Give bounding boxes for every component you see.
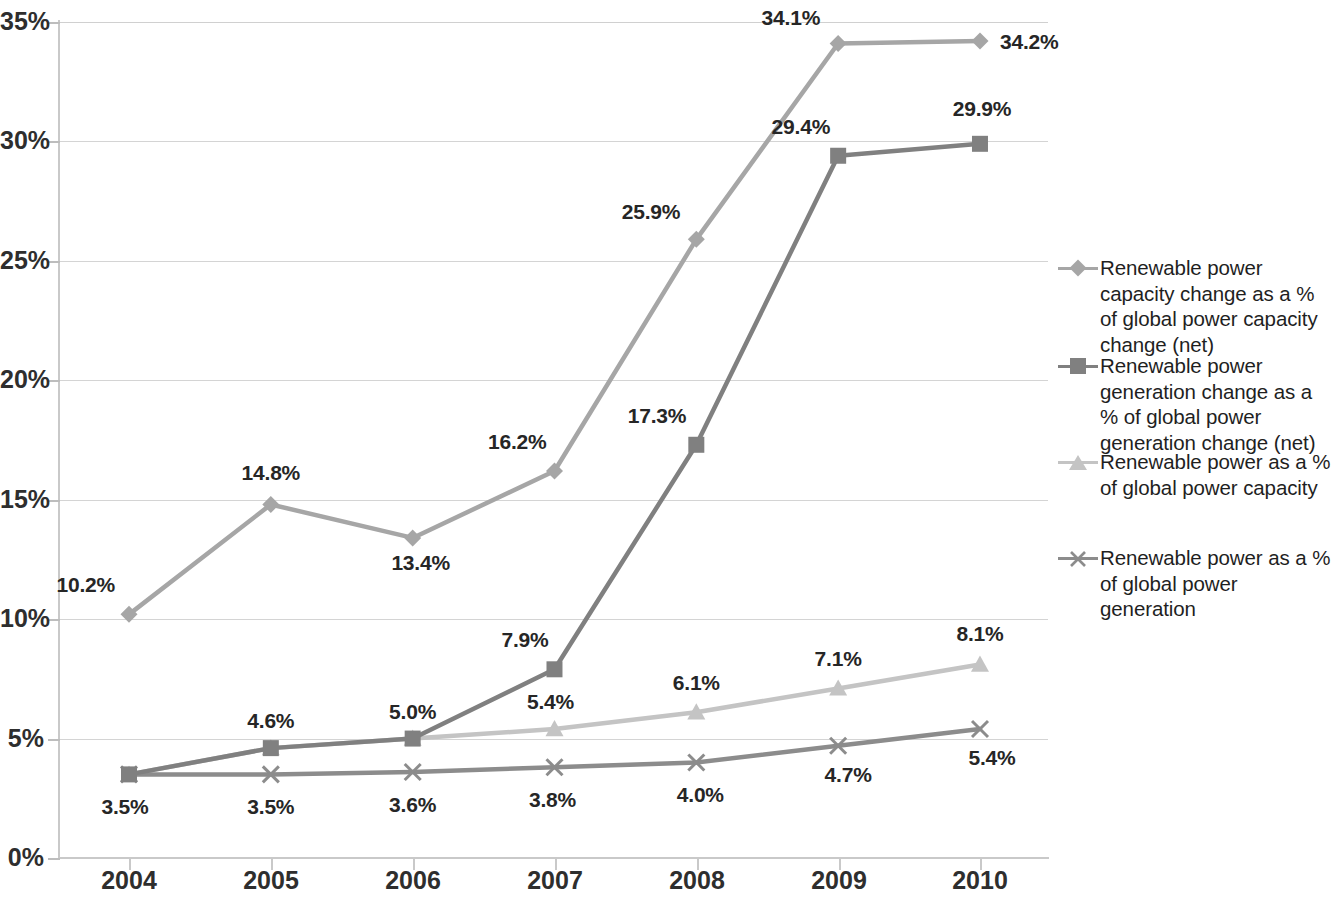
data-point-label: 7.1% <box>778 647 898 671</box>
data-point-label: 17.3% <box>0 404 686 428</box>
data-point-label: 13.4% <box>361 551 481 575</box>
x-axis-label-2005: 2005 <box>211 866 331 895</box>
y-axis-label-15: 15% <box>0 485 44 514</box>
gridline-5 <box>59 739 1048 740</box>
data-point-label: 34.1% <box>0 6 820 30</box>
data-point-label: 3.6% <box>353 793 473 817</box>
data-point-label: 29.4% <box>0 115 830 139</box>
legend-label: Renewable power generation change as a %… <box>1100 353 1333 455</box>
x-axis-label-2007: 2007 <box>495 866 615 895</box>
data-point-label: 5.4% <box>932 746 1052 770</box>
data-point-label: 7.9% <box>0 628 548 652</box>
y-tick-mark <box>48 858 60 860</box>
x-axis-line <box>58 857 1049 859</box>
data-point-label: 3.8% <box>492 788 612 812</box>
legend-item-share-capacity[interactable]: Renewable power as a % of global power c… <box>1058 449 1333 500</box>
data-point-label: 5.0% <box>353 700 473 724</box>
legend-marker <box>1070 260 1087 277</box>
y-axis-label-25: 25% <box>0 246 44 275</box>
x-axis-label-2010: 2010 <box>920 866 1040 895</box>
data-point-label: 8.1% <box>920 622 1040 646</box>
data-point-label: 3.5% <box>211 795 331 819</box>
gridline-20 <box>59 380 1048 381</box>
y-axis-label-20: 20% <box>0 365 44 394</box>
diamond-marker-icon <box>1058 255 1098 281</box>
data-point-label: 5.4% <box>490 690 610 714</box>
square-marker-icon <box>1058 353 1098 379</box>
x-axis-label-2004: 2004 <box>69 866 189 895</box>
chart-container: 35% 30% 25% 20% 15% 10% 5% 0% 2004 2005 … <box>0 0 1333 897</box>
legend-label: Renewable power capacity change as a % o… <box>1100 255 1333 357</box>
legend-item-share-generation[interactable]: Renewable power as a % of global power g… <box>1058 545 1333 622</box>
gridline-10 <box>59 619 1048 620</box>
data-point-label: 10.2% <box>0 573 115 597</box>
data-point-label: 29.9% <box>922 97 1042 121</box>
data-point-label: 4.7% <box>788 763 908 787</box>
cross-marker-icon <box>1058 545 1098 571</box>
legend-marker <box>1069 455 1087 470</box>
y-axis-label-0: 0% <box>0 843 44 872</box>
gridline-25 <box>59 261 1048 262</box>
data-point-label: 34.2% <box>1000 30 1059 54</box>
y-axis-label-5: 5% <box>0 724 44 753</box>
x-axis-label-2006: 2006 <box>353 866 473 895</box>
data-point-label: 14.8% <box>211 461 331 485</box>
data-point-label: 4.0% <box>640 783 760 807</box>
data-point-label: 4.6% <box>211 709 331 733</box>
gridline-30 <box>59 141 1048 142</box>
legend-marker <box>1069 550 1084 565</box>
data-point-label: 25.9% <box>0 200 680 224</box>
x-axis-label-2009: 2009 <box>779 866 899 895</box>
gridline-15 <box>59 500 1048 501</box>
data-point-label: 6.1% <box>636 671 756 695</box>
legend-label: Renewable power as a % of global power g… <box>1100 545 1333 622</box>
legend-label: Renewable power as a % of global power c… <box>1100 449 1333 500</box>
legend-item-capacity-change[interactable]: Renewable power capacity change as a % o… <box>1058 255 1333 357</box>
y-tick-mark <box>48 739 60 741</box>
data-point-label: 3.5% <box>65 795 185 819</box>
legend-marker <box>1070 358 1086 374</box>
data-point-label: 16.2% <box>0 430 546 454</box>
x-axis-label-2008: 2008 <box>637 866 757 895</box>
triangle-marker-icon <box>1058 449 1098 475</box>
legend-item-generation-change[interactable]: Renewable power generation change as a %… <box>1058 353 1333 455</box>
